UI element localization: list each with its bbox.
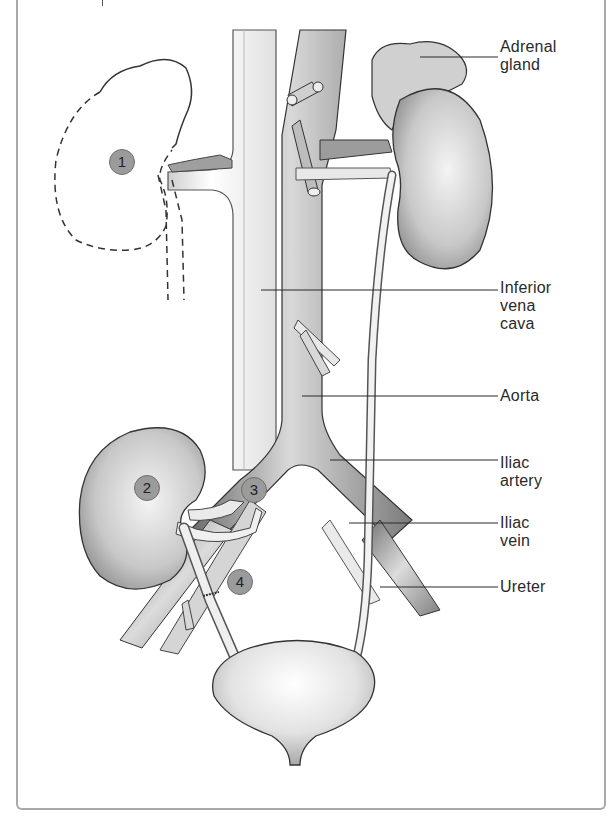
label-ureter: Ureter xyxy=(500,578,546,596)
bladder xyxy=(213,640,375,765)
label-iliac-artery: Iliac artery xyxy=(500,454,542,490)
label-adrenal-gland: Adrenal gland xyxy=(500,38,557,74)
label-inferior-vena-cava: Inferior vena cava xyxy=(500,279,551,333)
marker-1: 1 xyxy=(109,149,135,175)
marker-3: 3 xyxy=(241,477,267,503)
marker-2: 2 xyxy=(134,475,160,501)
anatomy-illustration xyxy=(0,0,612,830)
label-iliac-vein: Iliac vein xyxy=(500,514,530,550)
native-kidney-right xyxy=(372,42,493,269)
marker-4: 4 xyxy=(227,569,253,595)
label-aorta: Aorta xyxy=(500,387,539,405)
